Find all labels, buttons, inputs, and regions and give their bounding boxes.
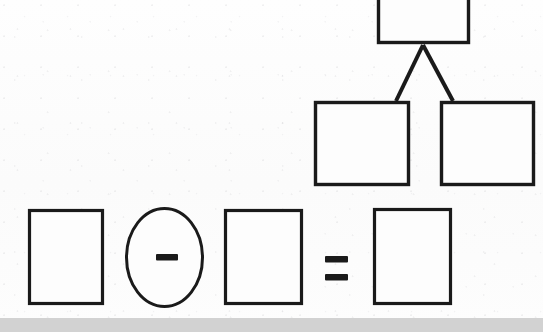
equation-row xyxy=(30,209,451,307)
tree-nodes xyxy=(316,0,534,185)
equals-bar-top xyxy=(325,256,348,263)
tree-root-box[interactable] xyxy=(379,0,469,43)
page-bottom-band xyxy=(0,318,543,332)
equals-sign-icon xyxy=(325,256,348,281)
minus-operator-group xyxy=(127,209,203,307)
diagram-ink-layer xyxy=(0,0,543,332)
equals-bar-bottom xyxy=(325,274,348,281)
tree-left-child-box[interactable] xyxy=(316,103,409,185)
connector-root-to-right-child xyxy=(423,45,453,101)
tree-connectors xyxy=(396,45,453,101)
equation-operand-box-2[interactable] xyxy=(226,211,302,304)
connector-root-to-left-child xyxy=(396,45,423,101)
equation-operand-box-1[interactable] xyxy=(30,211,103,304)
tree-right-child-box[interactable] xyxy=(442,103,534,185)
scanned-page xyxy=(0,0,543,332)
equation-result-box[interactable] xyxy=(375,210,451,304)
minus-sign-icon xyxy=(156,254,178,261)
